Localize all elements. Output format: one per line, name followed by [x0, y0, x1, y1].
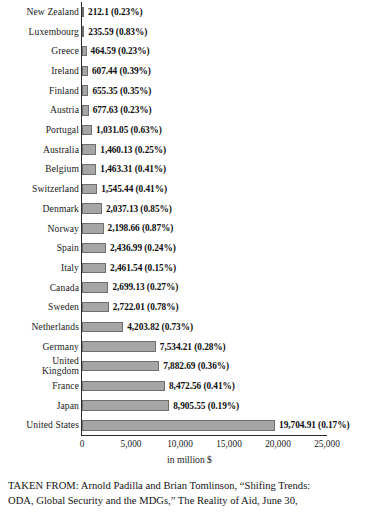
category-label: Spain	[0, 243, 79, 253]
bar	[82, 302, 109, 313]
bar	[82, 66, 88, 77]
bar-container: 19,704.91 (0.17%)	[82, 415, 379, 435]
category-label: Luxembourg	[0, 27, 79, 37]
category-label: Belgium	[0, 164, 79, 174]
category-label: Germany	[0, 342, 79, 352]
value-label: 2,461.54 (0.15%)	[110, 263, 176, 273]
chart-row: Switzerland1,545.44 (0.41%)	[0, 179, 379, 199]
value-label: 677.63 (0.23%)	[93, 105, 152, 115]
value-label: 1,463.31 (0.41%)	[100, 164, 166, 174]
bar	[82, 322, 123, 333]
bar	[82, 400, 169, 411]
bar-container: 7,534.21 (0.28%)	[82, 337, 379, 357]
bar	[82, 184, 97, 195]
bar	[82, 361, 159, 372]
bar	[82, 26, 84, 37]
chart-row: United Kingdom7,882.69 (0.36%)	[0, 356, 379, 376]
caption-line-2: ODA, Global Security and the MDGs,” The …	[8, 493, 374, 508]
bar-container: 2,198.66 (0.87%)	[82, 219, 379, 239]
chart-row: Finland655.35 (0.35%)	[0, 81, 379, 101]
bar	[82, 125, 92, 136]
chart-row: Luxembourg235.59 (0.83%)	[0, 22, 379, 42]
bar	[82, 46, 87, 57]
chart-row: Australia1,460.13 (0.25%)	[0, 140, 379, 160]
chart-row: Belgium1,463.31 (0.41%)	[0, 160, 379, 180]
chart-row: Austria677.63 (0.23%)	[0, 100, 379, 120]
value-label: 1,545.44 (0.41%)	[101, 184, 167, 194]
category-label: Denmark	[0, 204, 79, 214]
x-axis-ticks: 05,00010,00015,00020,00025,000	[0, 439, 379, 453]
bar-container: 1,463.31 (0.41%)	[82, 160, 379, 180]
value-label: 655.35 (0.35%)	[92, 86, 151, 96]
chart-row: France8,472.56 (0.41%)	[0, 376, 379, 396]
category-label: Austria	[0, 105, 79, 115]
category-label: Japan	[0, 401, 79, 411]
x-axis-line	[81, 435, 327, 436]
x-tick-label: 20,000	[265, 439, 291, 449]
value-label: 2,198.66 (0.87%)	[108, 223, 174, 233]
category-label: United States	[0, 420, 79, 430]
category-label: Norway	[0, 224, 79, 234]
chart-row: Canada2,699.13 (0.27%)	[0, 278, 379, 298]
value-label: 2,037.13 (0.85%)	[106, 204, 172, 214]
bar-container: 1,460.13 (0.25%)	[82, 140, 379, 160]
category-label: France	[0, 381, 79, 391]
bar-chart: New Zealand212.1 (0.23%)Luxembourg235.59…	[0, 0, 379, 466]
value-label: 1,460.13 (0.25%)	[100, 145, 166, 155]
bar	[82, 7, 84, 18]
bar	[82, 105, 89, 116]
bar-container: 8,472.56 (0.41%)	[82, 376, 379, 396]
category-label: Sweden	[0, 302, 79, 312]
bar-container: 464.59 (0.23%)	[82, 41, 379, 61]
bar-container: 1,545.44 (0.41%)	[82, 179, 379, 199]
value-label: 8,472.56 (0.41%)	[169, 381, 235, 391]
chart-row: Norway2,198.66 (0.87%)	[0, 219, 379, 239]
value-label: 235.59 (0.83%)	[88, 27, 147, 37]
value-label: 212.1 (0.23%)	[88, 7, 142, 17]
bar	[82, 144, 96, 155]
bar-container: 8,905.55 (0.19%)	[82, 396, 379, 416]
value-label: 607.44 (0.39%)	[92, 66, 151, 76]
category-label: Netherlands	[0, 322, 79, 332]
chart-row: Sweden2,722.01 (0.78%)	[0, 297, 379, 317]
bar	[82, 243, 106, 254]
chart-row: Germany7,534.21 (0.28%)	[0, 337, 379, 357]
value-label: 2,699.13 (0.27%)	[112, 282, 178, 292]
bar-container: 2,037.13 (0.85%)	[82, 199, 379, 219]
bar	[82, 263, 106, 274]
bar-container: 655.35 (0.35%)	[82, 81, 379, 101]
value-label: 19,704.91 (0.17%)	[279, 420, 349, 430]
bar-container: 2,699.13 (0.27%)	[82, 278, 379, 298]
category-label: Italy	[0, 263, 79, 273]
chart-row: Denmark2,037.13 (0.85%)	[0, 199, 379, 219]
x-tick-label: 25,000	[314, 439, 340, 449]
value-label: 1,031.05 (0.63%)	[96, 125, 162, 135]
x-tick-label: 15,000	[216, 439, 242, 449]
value-label: 2,722.01 (0.78%)	[113, 302, 179, 312]
chart-row: Japan8,905.55 (0.19%)	[0, 396, 379, 416]
category-label: Greece	[0, 46, 79, 56]
bar-container: 2,461.54 (0.15%)	[82, 258, 379, 278]
chart-rows: New Zealand212.1 (0.23%)Luxembourg235.59…	[0, 2, 379, 435]
chart-row: New Zealand212.1 (0.23%)	[0, 2, 379, 22]
y-axis-line	[81, 2, 82, 435]
caption-line-1: TAKEN FROM: Arnold Padilla and Brian Tom…	[8, 478, 374, 493]
bar	[82, 203, 102, 214]
x-tick-label: 5,000	[121, 439, 142, 449]
source-caption: TAKEN FROM: Arnold Padilla and Brian Tom…	[8, 478, 374, 509]
bar-container: 677.63 (0.23%)	[82, 100, 379, 120]
bar-container: 1,031.05 (0.63%)	[82, 120, 379, 140]
bar-container: 607.44 (0.39%)	[82, 61, 379, 81]
category-label: Canada	[0, 283, 79, 293]
bar	[82, 85, 88, 96]
bar-container: 7,882.69 (0.36%)	[82, 356, 379, 376]
chart-row: Italy2,461.54 (0.15%)	[0, 258, 379, 278]
category-label: Switzerland	[0, 184, 79, 194]
value-label: 7,882.69 (0.36%)	[163, 361, 229, 371]
bar	[82, 164, 96, 175]
bar-container: 4,203.82 (0.73%)	[82, 317, 379, 337]
category-label: New Zealand	[0, 7, 79, 17]
bar-container: 2,436.99 (0.24%)	[82, 238, 379, 258]
value-label: 4,203.82 (0.73%)	[127, 322, 193, 332]
chart-row: Greece464.59 (0.23%)	[0, 41, 379, 61]
